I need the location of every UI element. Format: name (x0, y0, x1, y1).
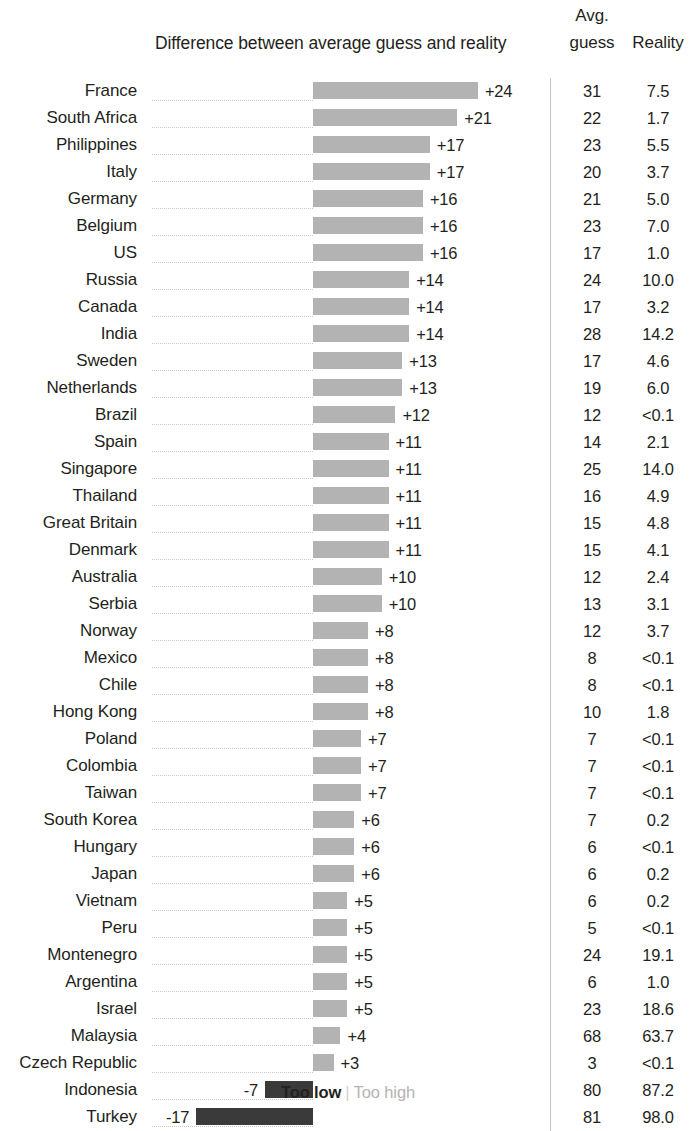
table-row: Canada+14173.2 (0, 294, 696, 321)
cell-reality: 14.0 (622, 459, 694, 479)
bar-positive (313, 811, 354, 828)
row-country-label: Canada (78, 297, 137, 317)
bar-value-label: +6 (361, 810, 379, 830)
cell-reality: 1.0 (622, 972, 694, 992)
cell-reality: 4.9 (622, 486, 694, 506)
bar-value-label: +14 (416, 324, 443, 344)
bar-value-label: +12 (402, 405, 429, 425)
cell-avg-guess: 7 (560, 729, 624, 749)
row-country-label: Australia (72, 567, 137, 587)
cell-reality: 4.6 (622, 351, 694, 371)
cell-avg-guess: 17 (560, 243, 624, 263)
row-country-label: Germany (68, 189, 137, 209)
bar-value-label: +24 (485, 81, 512, 101)
row-country-label: Russia (86, 270, 137, 290)
leader-line (152, 829, 313, 831)
bar-positive (313, 919, 347, 936)
bar-value-label: +6 (361, 837, 379, 857)
bar-value-label: +16 (430, 243, 457, 263)
cell-avg-guess: 19 (560, 378, 624, 398)
table-row: Turkey-178198.0 (0, 1104, 696, 1131)
bar-positive (313, 541, 389, 558)
row-country-label: Serbia (88, 594, 137, 614)
cell-reality: 0.2 (622, 810, 694, 830)
bar-value-label: +5 (354, 999, 372, 1019)
table-row: Russia+142410.0 (0, 267, 696, 294)
bar-value-label: +5 (354, 972, 372, 992)
table-row: Great Britain+11154.8 (0, 510, 696, 537)
bar-value-label: +6 (361, 864, 379, 884)
leader-line (152, 1018, 313, 1020)
bar-value-label: +8 (375, 621, 393, 641)
cell-avg-guess: 7 (560, 810, 624, 830)
cell-reality: 5.0 (622, 189, 694, 209)
cell-reality: 0.2 (622, 891, 694, 911)
cell-reality: <0.1 (622, 675, 694, 695)
row-country-label: Hong Kong (53, 702, 137, 722)
leader-line (152, 100, 313, 102)
cell-reality: 5.5 (622, 135, 694, 155)
leader-line (152, 640, 313, 642)
bar-positive (313, 325, 409, 342)
bar-value-label: +5 (354, 891, 372, 911)
leader-line (152, 748, 313, 750)
bar-positive (313, 622, 368, 639)
cell-avg-guess: 12 (560, 567, 624, 587)
chart-header: Difference between average guess and rea… (0, 0, 696, 78)
table-row: Malaysia+46863.7 (0, 1023, 696, 1050)
bar-positive (313, 973, 347, 990)
cell-avg-guess: 6 (560, 891, 624, 911)
cell-reality: 3.1 (622, 594, 694, 614)
cell-avg-guess: 12 (560, 405, 624, 425)
bar-value-label: +17 (437, 162, 464, 182)
bar-positive (313, 676, 368, 693)
cell-avg-guess: 13 (560, 594, 624, 614)
cell-avg-guess: 81 (560, 1107, 624, 1127)
row-country-label: France (85, 81, 137, 101)
bar-positive (313, 406, 395, 423)
table-row: India+142814.2 (0, 321, 696, 348)
bar-value-label: +13 (409, 351, 436, 371)
row-country-label: South Africa (47, 108, 137, 128)
bar-value-label: +14 (416, 270, 443, 290)
bar-positive (313, 703, 368, 720)
bar-value-label: +10 (389, 567, 416, 587)
cell-reality: 4.8 (622, 513, 694, 533)
cell-reality: 7.5 (622, 81, 694, 101)
table-row: Spain+11142.1 (0, 429, 696, 456)
legend-too-high: Too high (354, 1083, 416, 1101)
cell-avg-guess: 21 (560, 189, 624, 209)
leader-line (152, 370, 313, 372)
cell-reality: 63.7 (622, 1026, 694, 1046)
leader-line (152, 451, 313, 453)
table-row: Norway+8123.7 (0, 618, 696, 645)
cell-reality: 98.0 (622, 1107, 694, 1127)
table-row: France+24317.5 (0, 78, 696, 105)
row-country-label: Belgium (76, 216, 137, 236)
bar-value-label: +11 (396, 486, 422, 506)
row-country-label: Norway (80, 621, 137, 641)
table-row: Singapore+112514.0 (0, 456, 696, 483)
leader-line (152, 667, 313, 669)
row-country-label: Great Britain (43, 513, 137, 533)
cell-avg-guess: 20 (560, 162, 624, 182)
cell-avg-guess: 17 (560, 351, 624, 371)
bar-positive (313, 1000, 347, 1017)
leader-line (152, 208, 313, 210)
leader-line (152, 127, 313, 129)
cell-reality: 10.0 (622, 270, 694, 290)
leader-line (152, 613, 313, 615)
leader-line (152, 262, 313, 264)
table-row: Sweden+13174.6 (0, 348, 696, 375)
bar-value-label: +8 (375, 648, 393, 668)
cell-reality: 1.7 (622, 108, 694, 128)
leader-line (152, 1045, 313, 1047)
legend-separator: | (345, 1083, 349, 1101)
row-country-label: Philippines (56, 135, 137, 155)
row-country-label: Brazil (95, 405, 137, 425)
bar-positive (313, 1054, 334, 1071)
cell-avg-guess: 23 (560, 216, 624, 236)
bar-positive (313, 298, 409, 315)
row-country-label: Argentina (65, 972, 137, 992)
bar-value-label: +11 (396, 459, 422, 479)
